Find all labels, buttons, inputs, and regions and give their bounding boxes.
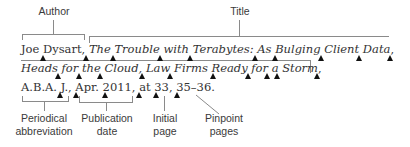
author-bracket-left xyxy=(22,34,23,40)
pubdate-bracket-right xyxy=(132,96,133,103)
citation-title-part1: The Trouble with Terabytes: As Bulging C… xyxy=(89,42,390,56)
pinpoint-pages-label: Pinpoint pages xyxy=(202,112,246,138)
citation-source-text: A.B.A. J., Apr. 2011, at 33, 35–36. xyxy=(21,80,215,94)
author-bracket-bar xyxy=(22,34,85,35)
space-marker-icon xyxy=(136,92,142,98)
space-marker-icon xyxy=(264,73,270,79)
space-marker-icon xyxy=(245,73,251,79)
citation-comma: , xyxy=(390,42,394,56)
citation-line-3: A.B.A. J., Apr. 2011, at 33, 35–36. xyxy=(21,80,215,94)
space-marker-icon xyxy=(55,73,61,79)
author-label: Author xyxy=(36,5,72,18)
author-bracket-stem xyxy=(53,20,54,34)
initial-page-stem xyxy=(164,96,165,111)
space-marker-icon xyxy=(97,73,103,79)
space-marker-icon xyxy=(83,55,89,61)
space-marker-icon xyxy=(174,92,180,98)
space-marker-icon xyxy=(40,55,46,61)
space-marker-icon xyxy=(76,73,82,79)
title-bracket-bar xyxy=(89,36,389,37)
space-marker-icon xyxy=(210,73,216,79)
space-marker-icon xyxy=(318,55,324,61)
pubdate-bracket-stem xyxy=(106,102,107,111)
space-marker-icon xyxy=(252,55,258,61)
citation-line-1: Joe Dysart, The Trouble with Terabytes: … xyxy=(21,42,394,56)
citation-author-text: Joe Dysart, xyxy=(21,42,89,56)
space-marker-icon xyxy=(167,73,173,79)
space-marker-icon xyxy=(153,92,159,98)
citation-diagram: Author Title Joe Dysart, The Trouble wit… xyxy=(0,0,410,147)
space-marker-icon xyxy=(272,55,278,61)
periodical-bracket-right xyxy=(68,96,69,102)
space-marker-icon xyxy=(157,55,163,61)
periodical-bracket-stem xyxy=(44,101,45,111)
periodical-abbreviation-label: Periodical abbreviation xyxy=(14,112,74,138)
author-bracket-right xyxy=(84,34,85,40)
space-marker-icon xyxy=(57,92,63,98)
title-bracket-stem xyxy=(239,20,240,37)
publication-date-label: Publication date xyxy=(80,112,134,138)
title-label: Title xyxy=(228,5,252,18)
space-marker-icon xyxy=(274,73,280,79)
periodical-bracket-bar xyxy=(22,101,69,102)
space-marker-icon xyxy=(110,55,116,61)
initial-page-label: Initial page xyxy=(150,112,180,138)
space-marker-icon xyxy=(102,92,108,98)
space-marker-icon xyxy=(387,55,393,61)
space-marker-icon xyxy=(314,73,320,79)
space-marker-icon xyxy=(187,55,193,61)
space-marker-icon xyxy=(139,73,145,79)
space-marker-icon xyxy=(356,55,362,61)
